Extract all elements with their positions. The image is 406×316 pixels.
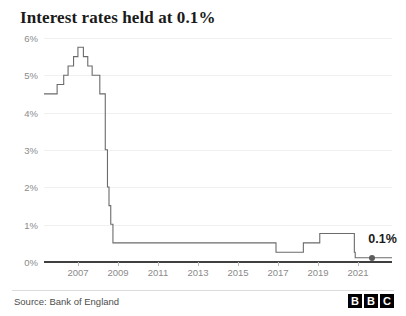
- bbc-logo-letter-b1: B: [348, 294, 362, 308]
- annotation-label-current-rate: 0.1%: [368, 232, 397, 246]
- chart-card: Interest rates held at 0.1% 6% 5% 4% 3% …: [0, 0, 406, 316]
- source-attribution: Source: Bank of England: [14, 296, 119, 307]
- bbc-logo-letter-c: C: [380, 294, 394, 308]
- footer-divider: [12, 290, 394, 291]
- bbc-logo: B B C: [348, 294, 394, 308]
- bbc-logo-letter-b2: B: [364, 294, 378, 308]
- series-interest-rate: [0, 0, 406, 316]
